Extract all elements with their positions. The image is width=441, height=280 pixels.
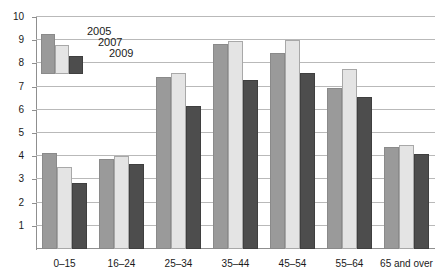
y-axis-tick-label: 3: [0, 174, 24, 184]
x-axis-tick-label: 55–64: [321, 252, 378, 269]
bar-2005-35–44: [213, 44, 228, 249]
bar-2007-0–15: [57, 167, 72, 249]
bar-2005-65-and-over: [384, 147, 399, 249]
y-axis-tick-label: 4: [0, 151, 24, 161]
bar-2009-45–54: [300, 73, 315, 249]
bar-2005-25–34: [156, 77, 171, 249]
bar-group: [378, 17, 435, 249]
x-axis-tick-labels: 0–1516–2425–3435–4445–5455–6465 and over: [36, 252, 435, 269]
bar-2007-55–64: [342, 69, 357, 249]
bar-group: [321, 17, 378, 249]
bar-2009-16–24: [129, 164, 144, 249]
bar-2009-35–44: [243, 80, 258, 249]
x-axis-tick-label: 16–24: [93, 252, 150, 269]
bar-2007-16–24: [114, 156, 129, 249]
x-axis-tick-label: 65 and over: [378, 252, 435, 269]
y-axis-tick-label: 5: [0, 128, 24, 138]
bar-group-bars: [321, 17, 378, 249]
legend-label-2009: 2009: [109, 48, 133, 59]
legend-swatch-2005: [41, 34, 55, 74]
bar-2007-25–34: [171, 73, 186, 249]
y-axis-tick-label: 10: [0, 12, 24, 22]
bar-group: [264, 17, 321, 249]
bar-2007-45–54: [285, 40, 300, 249]
y-axis-tick-label: 9: [0, 35, 24, 45]
x-axis-tick-label: 35–44: [207, 252, 264, 269]
y-axis-tick-label: 6: [0, 105, 24, 115]
y-axis-tick-label: 7: [0, 82, 24, 92]
bar-2005-45–54: [270, 53, 285, 249]
legend-swatch-2009: [69, 56, 83, 74]
bar-2005-16–24: [99, 159, 114, 249]
bar-group-bars: [378, 17, 435, 249]
bar-2007-35–44: [228, 41, 243, 249]
bar-2009-55–64: [357, 97, 372, 249]
bar-group-bars: [264, 17, 321, 249]
legend-swatch-2007: [55, 45, 69, 74]
bar-2005-55–64: [327, 88, 342, 249]
x-axis-tick-label: 0–15: [36, 252, 93, 269]
bar-group-bars: [207, 17, 264, 249]
y-axis-tick-label: 2: [0, 198, 24, 208]
bar-chart: 10987654321 0–1516–2425–3435–4445–5455–6…: [0, 0, 441, 280]
x-axis-tick-label: 45–54: [264, 252, 321, 269]
x-axis-tick-label: 25–34: [150, 252, 207, 269]
y-axis-tick-label: 1: [0, 221, 24, 231]
bar-2009-0–15: [72, 183, 87, 249]
bar-2009-65-and-over: [414, 154, 429, 249]
bar-group: [207, 17, 264, 249]
legend: 2005 2007 2009: [41, 26, 161, 74]
bar-2009-25–34: [186, 106, 201, 249]
bar-2007-65-and-over: [399, 145, 414, 249]
y-axis-tick-label: 8: [0, 58, 24, 68]
bar-2005-0–15: [42, 153, 57, 249]
